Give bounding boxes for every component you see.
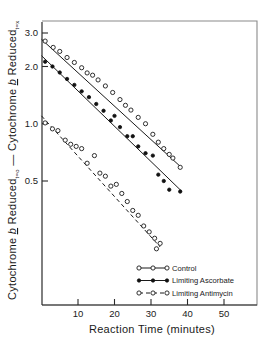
data-point: [144, 152, 147, 155]
data-point: [136, 213, 140, 217]
data-point: [158, 241, 162, 245]
x-tick-label-10: 10: [73, 308, 84, 319]
data-point: [137, 145, 140, 148]
legend-label: Control: [172, 264, 197, 273]
legend-marker: [137, 291, 141, 295]
data-point: [63, 138, 67, 142]
legend-label: Limiting Ascorbate: [172, 276, 234, 285]
data-point: [51, 65, 54, 68]
data-point: [80, 66, 84, 70]
data-point: [91, 73, 95, 77]
data-point: [167, 152, 171, 156]
data-point: [69, 142, 73, 146]
data-point: [98, 171, 102, 175]
data-point: [95, 102, 98, 105]
legend-marker: [165, 279, 168, 282]
data-point: [85, 161, 89, 165]
data-point: [80, 90, 83, 93]
data-point: [178, 165, 182, 169]
legend-label: Limiting Antimycin: [172, 289, 233, 298]
data-point: [103, 174, 107, 178]
data-point: [168, 188, 171, 191]
x-tick-label-40: 40: [182, 308, 193, 319]
data-point: [87, 95, 90, 98]
legend-marker: [151, 291, 155, 295]
data-point: [154, 247, 158, 251]
data-point: [136, 115, 140, 119]
legend-marker: [151, 266, 155, 270]
legend-marker: [165, 266, 169, 270]
data-point: [58, 49, 62, 53]
y-tick-label-2.0: 2.0: [25, 61, 38, 72]
data-point: [143, 122, 147, 126]
data-point: [65, 77, 68, 80]
data-point: [74, 144, 78, 148]
y-axis-title-text: Cytochrome b Reducedt=o — Cytochrome b R…: [6, 20, 20, 300]
data-point: [85, 71, 89, 75]
data-point: [157, 173, 160, 176]
data-point: [125, 199, 129, 203]
y-axis-title: Cytochrome b Reducedt=o — Cytochrome b R…: [6, 20, 20, 300]
legend-marker: [151, 279, 154, 282]
legend-marker: [137, 266, 141, 270]
data-point: [65, 55, 69, 59]
data-point: [118, 97, 122, 101]
data-point: [50, 127, 54, 131]
data-point: [129, 108, 133, 112]
data-point: [179, 190, 182, 193]
y-tick-label-0.5: 0.5: [25, 175, 38, 186]
data-point: [118, 125, 121, 128]
data-point: [109, 119, 112, 122]
y-tick-label-1.0: 1.0: [25, 118, 38, 129]
x-axis-title-text: Reaction Time (minutes): [89, 323, 215, 335]
data-point: [51, 45, 55, 49]
data-point: [43, 39, 47, 43]
data-point: [151, 154, 154, 157]
legend-marker: [165, 291, 169, 295]
data-point: [43, 121, 47, 125]
data-point: [147, 230, 151, 234]
data-point: [92, 154, 96, 158]
x-tick-label-30: 30: [146, 308, 157, 319]
data-point: [96, 78, 100, 82]
data-point: [113, 114, 116, 117]
data-point: [171, 156, 175, 160]
data-point: [43, 60, 46, 63]
legend-marker: [137, 279, 140, 282]
data-point: [73, 83, 76, 86]
data-point: [153, 236, 157, 240]
data-point: [120, 191, 124, 195]
data-point: [156, 140, 160, 144]
semilog-plot: 3.02.01.00.5 1020304050 ControlLimiting …: [0, 0, 276, 351]
data-point: [131, 208, 135, 212]
data-point: [151, 132, 155, 136]
x-tick-label-20: 20: [109, 308, 120, 319]
data-point: [72, 60, 76, 64]
x-tick-label-50: 50: [219, 308, 230, 319]
data-point: [162, 179, 165, 182]
data-point: [126, 135, 129, 138]
data-point: [114, 182, 118, 186]
x-axis-title: Reaction Time (minutes): [89, 323, 215, 335]
data-point: [131, 135, 134, 138]
data-point: [142, 224, 146, 228]
data-point: [109, 184, 113, 188]
data-point: [111, 90, 115, 94]
data-point: [56, 129, 60, 133]
data-point: [103, 84, 107, 88]
data-point: [162, 147, 166, 151]
data-point: [58, 71, 61, 74]
data-point: [123, 103, 127, 107]
figure-container: 3.02.01.00.5 1020304050 ControlLimiting …: [0, 0, 276, 351]
data-point: [80, 147, 84, 151]
y-tick-label-3.0: 3.0: [25, 27, 38, 38]
data-point: [102, 109, 105, 112]
